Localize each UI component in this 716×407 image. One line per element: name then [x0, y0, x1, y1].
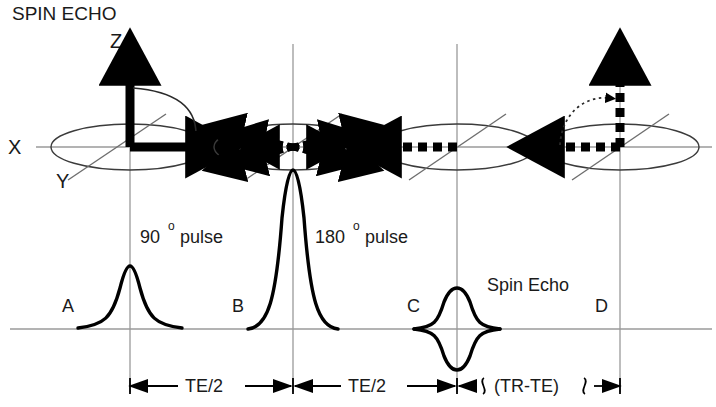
pulse-180-value: 180: [315, 227, 345, 247]
axis-label-z: Z: [110, 30, 122, 52]
break-mark-left-icon: [482, 378, 485, 394]
figure-title: SPIN ECHO: [12, 3, 117, 24]
spin-echo-diagram-figure: SPIN ECHO Z X Y: [0, 0, 716, 407]
pulse-90-degree-icon: o: [168, 219, 175, 233]
timing-label-te-half-1: TE/2: [185, 376, 223, 396]
axis-label-y: Y: [56, 170, 69, 192]
axis-label-x: X: [8, 136, 21, 158]
timing-label-te-half-2: TE/2: [348, 376, 386, 396]
spin-vector: [293, 133, 351, 147]
t1-recovery-arc-d: [560, 98, 608, 145]
pulse-label-90: 90 o pulse: [140, 219, 223, 247]
pulse-90-suffix: pulse: [180, 227, 223, 247]
panel-letter-b: B: [232, 296, 244, 316]
spin-vector: [235, 147, 293, 162]
vertical-gridlines: [130, 40, 620, 392]
timing-segment-te-half-2: TE/2: [295, 376, 455, 396]
pulse-180-degree-icon: o: [353, 219, 360, 233]
pulse-90-value: 90: [140, 227, 160, 247]
break-mark-right-icon: [583, 378, 586, 394]
spin-vector: [235, 133, 293, 147]
timing-segment-te-half-1: TE/2: [130, 376, 291, 396]
timing-segment-tr-minus-te: (TR-TE): [459, 376, 620, 396]
diagram-canvas: SPIN ECHO Z X Y: [0, 0, 716, 407]
spin-echo-label: Spin Echo: [487, 275, 569, 295]
flip-angle-arc-a: [133, 88, 196, 134]
timing-label-tr-minus-te: (TR-TE): [494, 376, 559, 396]
panel-letter-a: A: [62, 296, 74, 316]
spin-vector: [293, 147, 351, 162]
panel-letter-c: C: [407, 296, 420, 316]
panel-letter-d: D: [595, 296, 608, 316]
pulse-180-suffix: pulse: [365, 227, 408, 247]
pulse-label-180: 180 o pulse: [315, 219, 408, 247]
timing-bar: TE/2 TE/2 (TR-TE): [130, 376, 620, 396]
